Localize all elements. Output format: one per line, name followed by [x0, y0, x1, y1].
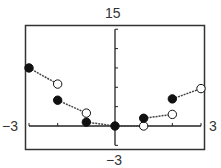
closed-point	[82, 118, 90, 126]
step-segment	[58, 100, 87, 113]
xmax-label: 3	[209, 119, 217, 133]
closed-point	[111, 122, 119, 130]
open-point	[168, 110, 176, 118]
open-point	[53, 80, 61, 88]
open-point	[139, 122, 147, 130]
closed-point	[53, 96, 61, 104]
ymax-label: 15	[105, 6, 121, 20]
closed-point	[168, 95, 176, 103]
xmin-label: −3	[2, 119, 18, 133]
closed-point	[25, 64, 33, 72]
chart-plot	[0, 0, 221, 168]
closed-point	[139, 114, 147, 122]
ymin-label: −3	[106, 153, 122, 167]
open-point	[197, 84, 205, 92]
step-segment	[29, 68, 58, 84]
open-point	[82, 109, 90, 117]
